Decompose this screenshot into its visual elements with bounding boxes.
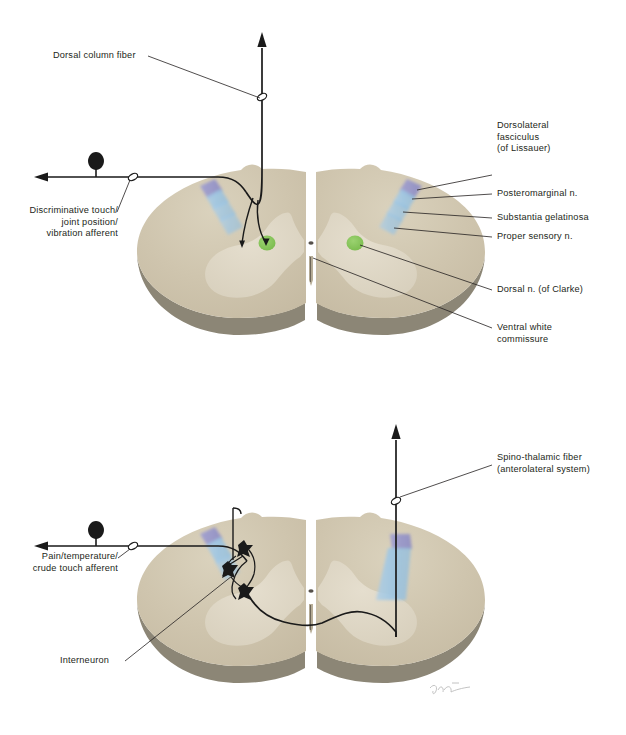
label-proper-sensory-nucleus: Proper sensory n. [497, 231, 573, 243]
spinothalamic-node-marker [390, 496, 402, 506]
label-dorsal-nucleus-of-clarke: Dorsal n. (of Clarke) [497, 284, 583, 296]
spinothalamic-arrow [391, 424, 400, 439]
label-dorsolateral-fasciculus: Dorsolateral fasciculus (of Lissauer) [497, 120, 550, 155]
afferent-node-marker [127, 172, 139, 182]
label-spinothalamic-fiber: Spino-thalamic fiber (anterolateral syst… [497, 452, 590, 475]
label-substantia-gelatinosa: Substantia gelatinosa [497, 212, 589, 224]
artist-signature [430, 683, 470, 694]
upper-cord-graphic [34, 32, 485, 335]
anatomy-figure: Dorsal column fiber Discriminative touch… [0, 0, 626, 735]
right-clarke-nucleus [347, 236, 364, 251]
label-posteromarginal-nucleus: Posteromarginal n. [497, 188, 577, 200]
pain-afferent-direction-arrow [34, 541, 48, 550]
dorsal-root-ganglion-cell [88, 152, 104, 177]
label-discriminative-afferent: Discriminative touch/ joint position/ vi… [0, 205, 118, 240]
pain-drg-cell [88, 521, 104, 546]
label-dorsal-column-fiber: Dorsal column fiber [53, 50, 136, 62]
spinal-cord-diagram-svg [0, 0, 626, 735]
label-ventral-white-commissure: Ventral white commissure [497, 322, 552, 345]
dorsal-column-arrow [257, 32, 266, 47]
label-interneuron: Interneuron [60, 655, 109, 667]
afferent-direction-arrow [34, 172, 48, 181]
label-pain-afferent: Pain/temperature/ crude touch afferent [0, 551, 118, 574]
